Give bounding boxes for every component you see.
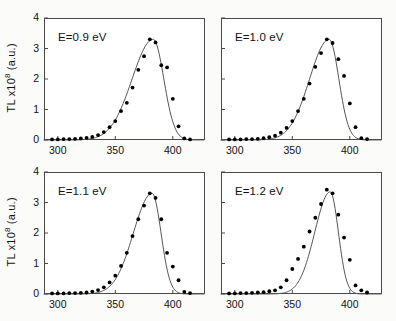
data-point [233,291,237,295]
data-points-bottom-right [227,188,369,296]
x-tick-label: 350 [275,298,309,310]
data-point [336,213,340,217]
plot-panel-bottom-right: 300350400E=1.2 eV [0,0,396,321]
data-point [331,191,335,195]
data-point [325,188,329,192]
data-point [262,290,266,294]
x-tick-label: 400 [333,298,367,310]
data-point [365,291,369,295]
data-point [239,291,243,295]
fit-curve-bottom-right [221,192,381,294]
data-point [256,291,260,295]
data-point [319,202,323,206]
data-point [273,288,277,292]
data-point [313,216,317,220]
data-point [342,236,346,240]
panel-grid: 01234300350400E=0.9 eVTL x108 (a.u.)3003… [0,0,396,321]
data-point [267,289,271,293]
x-tick-label: 300 [218,298,252,310]
data-point [354,284,358,288]
data-point [250,291,254,295]
data-point [290,267,294,271]
data-point [308,230,312,234]
data-point [244,291,248,295]
panel-annotation-bottom-right: E=1.2 eV [235,185,283,197]
plot-canvas-bottom-right [0,0,396,321]
data-point [279,285,283,289]
tl-glow-curve-figure: 01234300350400E=0.9 eVTL x108 (a.u.)3003… [0,0,396,321]
data-point [227,291,231,295]
data-point [296,257,300,261]
data-point [302,245,306,249]
data-point [359,288,363,292]
data-point [285,278,289,282]
data-point [348,258,352,262]
